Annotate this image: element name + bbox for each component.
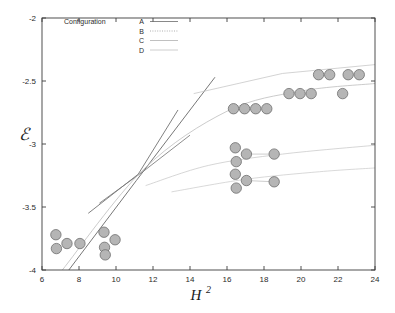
x-axis-title-base: H (190, 287, 203, 303)
x-axis-title-exponent: 2 (206, 284, 211, 295)
data-point (306, 88, 316, 98)
y-tick-label: -2 (29, 14, 37, 23)
x-tick-label: 24 (371, 275, 380, 284)
legend-label: A (139, 18, 144, 25)
data-point (295, 88, 305, 98)
data-point (313, 70, 323, 80)
x-tick-label: 12 (149, 275, 158, 284)
legend-label: D (139, 47, 144, 54)
y-tick-label: -3.5 (22, 203, 36, 212)
y-tick-label: -2.5 (22, 77, 36, 86)
data-point (262, 104, 272, 114)
data-point (269, 177, 279, 187)
plot-background (0, 0, 395, 313)
data-point (51, 230, 61, 240)
legend-label: C (139, 37, 144, 44)
x-tick-label: 16 (223, 275, 232, 284)
data-point (110, 235, 120, 245)
data-point (241, 149, 251, 159)
data-point (354, 70, 364, 80)
data-point (241, 175, 251, 185)
legend-label: B (139, 28, 144, 35)
legend-title: Configuration (64, 18, 106, 26)
data-point (100, 250, 110, 260)
x-tick-label: 8 (77, 275, 82, 284)
x-tick-label: 14 (186, 275, 195, 284)
x-tick-label: 18 (260, 275, 269, 284)
data-point (62, 238, 72, 248)
y-tick-label: -3 (29, 140, 37, 149)
data-point (231, 183, 241, 193)
y-tick-label: -4 (29, 266, 37, 275)
data-point (228, 104, 238, 114)
data-point (230, 143, 240, 153)
x-tick-label: 20 (297, 275, 306, 284)
x-tick-label: 6 (40, 275, 45, 284)
scatter-plot-svg: 681012141618202224 -4-3.5-3-2.5-2 ℰ H 2 … (0, 0, 395, 313)
data-point (75, 238, 85, 248)
data-point (230, 169, 240, 179)
x-tick-label: 22 (334, 275, 343, 284)
data-point (231, 156, 241, 166)
chart-figure: 681012141618202224 -4-3.5-3-2.5-2 ℰ H 2 … (0, 0, 395, 313)
data-point (337, 88, 347, 98)
data-point (99, 227, 109, 237)
data-point (324, 70, 334, 80)
data-point (269, 149, 279, 159)
data-point (250, 104, 260, 114)
data-point (284, 88, 294, 98)
data-point (51, 243, 61, 253)
data-point (343, 70, 353, 80)
data-point (239, 104, 249, 114)
x-tick-label: 10 (112, 275, 121, 284)
